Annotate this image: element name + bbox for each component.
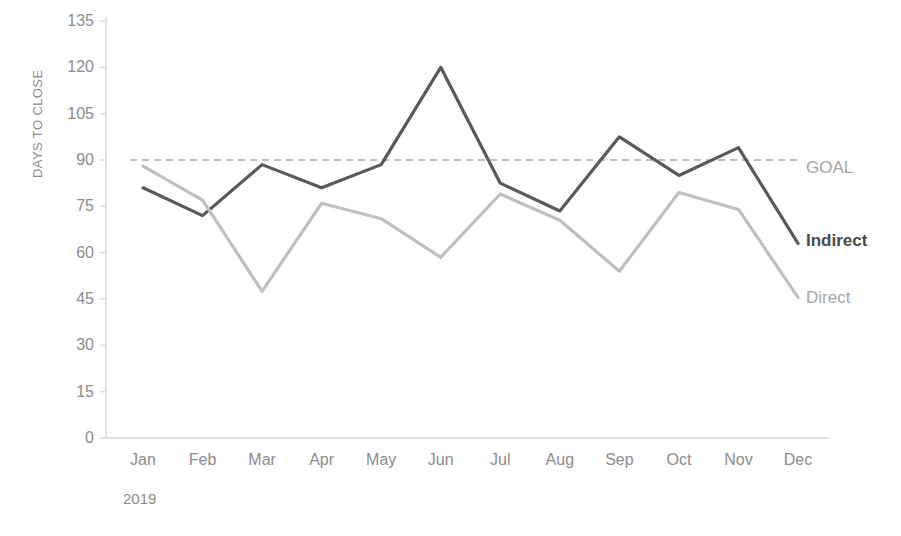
x-tick-label: May: [366, 452, 396, 468]
x-tick-label: Sep: [605, 452, 633, 468]
x-tick-label: Feb: [189, 452, 217, 468]
x-tick-label: Nov: [724, 452, 752, 468]
series-label-indirect: Indirect: [806, 231, 867, 251]
x-tick-label: Mar: [248, 452, 276, 468]
x-axis-tick-labels: JanFebMarAprMayJunJulAugSepOctNovDec: [0, 0, 901, 536]
x-tick-label: Jan: [130, 452, 156, 468]
x-axis-period-label: 2019: [123, 490, 156, 507]
series-label-goal: GOAL: [806, 158, 853, 178]
line-chart: DAYS TO CLOSE 1351201059075604530150 Jan…: [0, 0, 901, 536]
x-tick-label: Jul: [490, 452, 510, 468]
x-tick-label: Aug: [546, 452, 574, 468]
x-tick-label: Apr: [309, 452, 334, 468]
x-tick-label: Oct: [666, 452, 691, 468]
x-tick-label: Jun: [428, 452, 454, 468]
x-tick-label: Dec: [784, 452, 812, 468]
series-label-direct: Direct: [806, 288, 850, 308]
